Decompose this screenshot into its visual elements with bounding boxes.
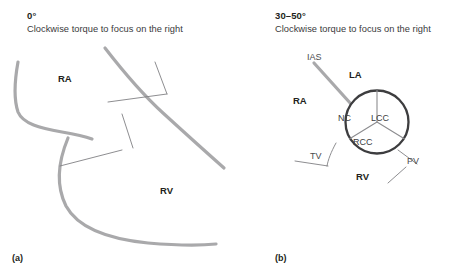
leaflet-line-upper-right	[155, 62, 167, 94]
tv-tick-line	[295, 161, 328, 166]
panel-a: 0° Clockwise torque to focus on the righ…	[0, 0, 265, 272]
structure-label-ias: IAS	[307, 53, 322, 62]
chamber-label-rv: RV	[160, 186, 173, 196]
chamber-label-rv: RV	[356, 172, 369, 182]
rv-free-wall-curve	[59, 138, 216, 245]
tv-leaflet-curve	[327, 143, 336, 166]
leaflet-line-lower-right	[122, 114, 133, 148]
panel-a-caption: (a)	[12, 253, 23, 263]
chamber-label-la: LA	[349, 70, 362, 80]
chamber-label-ra: RA	[293, 96, 307, 106]
cusp-label-nc: NC	[338, 114, 351, 123]
valve-label-pv: PV	[407, 157, 419, 166]
panel-b-artwork	[265, 0, 459, 272]
pv-leaflet-lower-line	[388, 167, 406, 183]
valve-label-tv: TV	[310, 152, 322, 161]
cusp-label-rcc: RCC	[353, 138, 373, 147]
chamber-label-ra: RA	[58, 74, 72, 84]
panel-a-artwork	[0, 0, 265, 272]
cusp-label-lcc: LCC	[371, 114, 389, 123]
panel-b: 30–50° Clockwise torque to focus on the …	[265, 0, 459, 272]
leaflet-line-lower-left	[60, 150, 122, 166]
figure-echo-views: 0° Clockwise torque to focus on the righ…	[0, 0, 459, 272]
interatrial-septum-curve	[105, 48, 224, 168]
valve-leaflet-lines	[60, 62, 167, 166]
ra-free-wall-curve	[15, 62, 92, 139]
ias-line	[314, 63, 351, 104]
leaflet-line-upper-left	[108, 94, 167, 102]
chamber-outlines	[15, 48, 224, 245]
panel-b-caption: (b)	[275, 253, 287, 263]
